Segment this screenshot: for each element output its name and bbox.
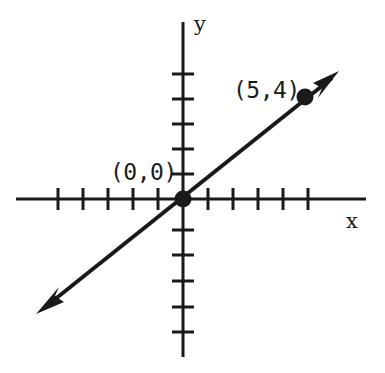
coordinate-plane-figure: g	[0, 0, 385, 373]
origin-point-label: (0,0)	[110, 161, 177, 184]
x-axis-label: x	[346, 211, 358, 232]
point-5-4-label: (5,4)	[233, 79, 300, 102]
origin-point-marker	[175, 191, 192, 208]
graph-canvas	[0, 0, 385, 373]
line-arrowhead-lower-left	[36, 287, 64, 314]
line-arrowhead-upper-right	[313, 71, 339, 98]
y-axis-label: y	[194, 14, 206, 35]
